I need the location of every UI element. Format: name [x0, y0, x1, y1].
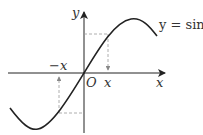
y-axis-label: y — [71, 5, 80, 20]
x-axis-label: x — [156, 75, 164, 90]
pos-x-label: x — [104, 75, 112, 90]
neg-x-label: −x — [49, 58, 68, 73]
origin-label: O — [86, 75, 97, 90]
function-label: y = sin : — [158, 17, 203, 32]
sine-diagram: y x O x −x y = sin : — [0, 0, 203, 135]
